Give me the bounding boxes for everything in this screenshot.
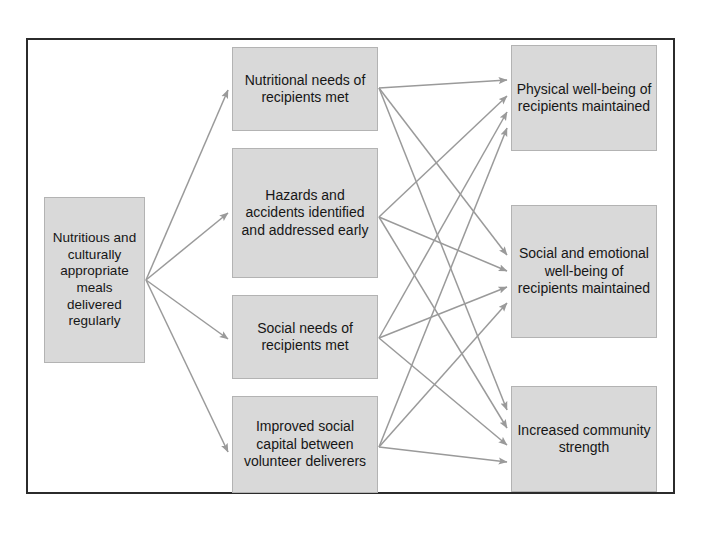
node-outcome-social-emotional-wellbeing[interactable]: Social and emotional well-being of recip… [511,205,657,338]
node-outcome-community-strength[interactable]: Increased community strength [511,386,657,492]
node-outcome-social-emotional-wellbeing-label: Social and emotional well-being of recip… [516,245,652,297]
node-output-social-capital-label: Improved social capital between voluntee… [237,418,373,470]
node-outcome-physical-wellbeing-label: Physical well-being of recipients mainta… [516,81,652,116]
node-output-nutritional-needs[interactable]: Nutritional needs of recipients met [232,47,378,131]
node-outcome-physical-wellbeing[interactable]: Physical well-being of recipients mainta… [511,45,657,151]
node-output-social-needs[interactable]: Social needs of recipients met [232,295,378,379]
node-output-social-capital[interactable]: Improved social capital between voluntee… [232,396,378,493]
node-input-meals-label: Nutritious and culturally appropriate me… [49,230,140,330]
node-output-hazards-accidents[interactable]: Hazards and accidents identified and add… [232,148,378,278]
node-outcome-community-strength-label: Increased community strength [516,422,652,457]
node-output-nutritional-needs-label: Nutritional needs of recipients met [237,72,373,107]
node-output-hazards-accidents-label: Hazards and accidents identified and add… [237,187,373,239]
node-output-social-needs-label: Social needs of recipients met [237,320,373,355]
diagram-canvas: Nutritious and culturally appropriate me… [0,0,701,536]
node-input-meals[interactable]: Nutritious and culturally appropriate me… [44,197,145,363]
